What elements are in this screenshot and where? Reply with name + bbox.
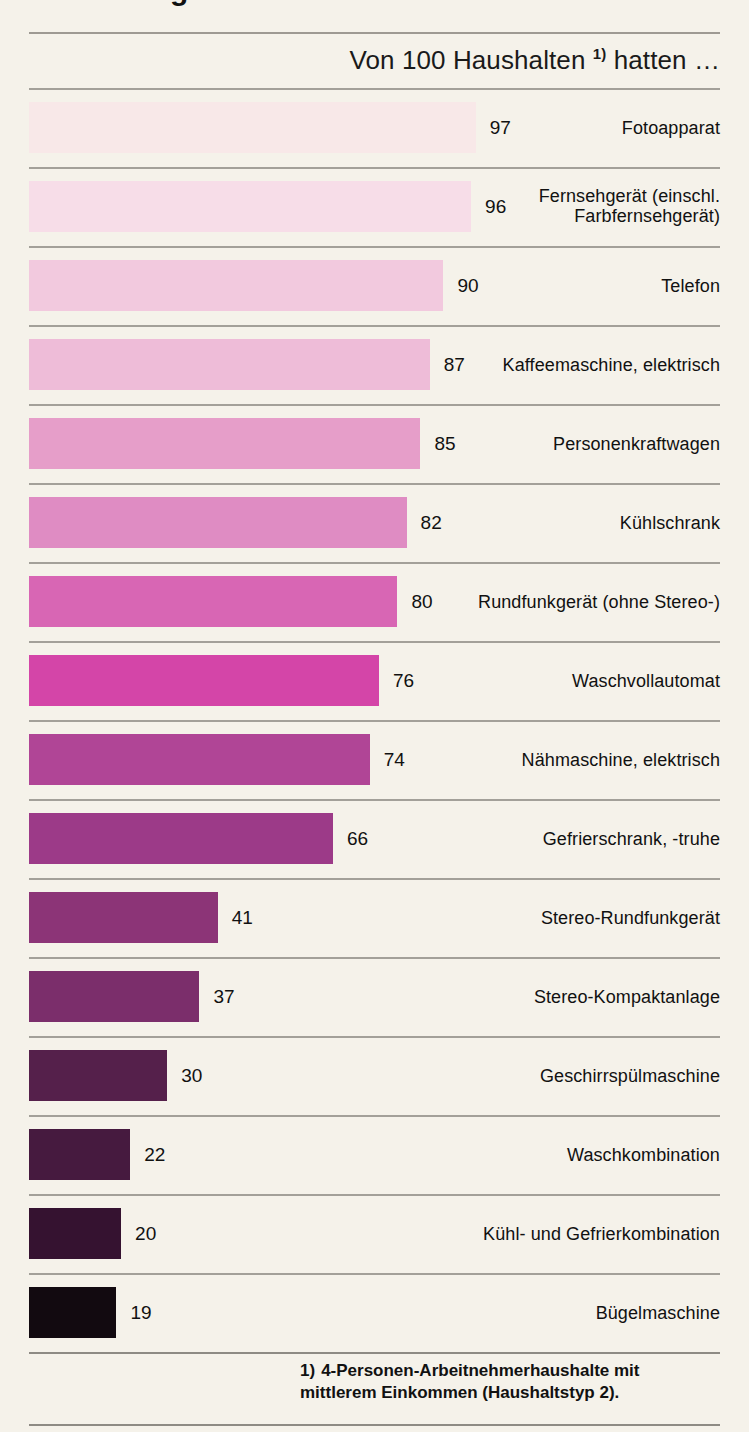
bar-row: 97Fotoapparat — [0, 88, 749, 167]
bar-rows: 97Fotoapparat96Fernsehgerät (einschl. Fa… — [0, 88, 749, 1352]
bar-row: 80Rundfunkgerät (ohne Stereo-) — [0, 562, 749, 641]
bar-label: Kühlschrank — [620, 512, 720, 533]
bar-value: 19 — [130, 1302, 151, 1324]
row-separator — [29, 167, 720, 169]
bar — [29, 655, 379, 706]
row-separator — [29, 799, 720, 801]
bar-row: 66Gefrierschrank, -truhe — [0, 799, 749, 878]
row-separator — [29, 720, 720, 722]
bar — [29, 892, 218, 943]
bar-value: 82 — [421, 512, 442, 534]
bar-label: Kühl- und Gefrierkombination — [483, 1223, 720, 1244]
bar — [29, 497, 407, 548]
rule-bottom — [29, 1424, 720, 1426]
caption-text-after: hatten … — [606, 45, 720, 75]
bar-value: 85 — [434, 433, 455, 455]
bar-row: 41Stereo-Rundfunkgerät — [0, 878, 749, 957]
bar — [29, 971, 199, 1022]
bar-row: 22Waschkombination — [0, 1115, 749, 1194]
bar-label: Telefon — [661, 275, 720, 296]
bar-value: 30 — [181, 1065, 202, 1087]
bar-row: 90Telefon — [0, 246, 749, 325]
bar-label: Fotoapparat — [622, 117, 720, 138]
bar-label: Rundfunkgerät (ohne Stereo-) — [478, 591, 720, 612]
bar-row: 76Waschvollautomat — [0, 641, 749, 720]
bar-row: 96Fernsehgerät (einschl. Farbfernsehgerä… — [0, 167, 749, 246]
bar-value: 87 — [444, 354, 465, 376]
bar-row: 19Bügelmaschine — [0, 1273, 749, 1352]
bar — [29, 1208, 121, 1259]
bar-label: Geschirrspülmaschine — [540, 1065, 720, 1086]
bar-label: Stereo-Rundfunkgerät — [541, 907, 720, 928]
footnote-marker: 1) — [300, 1361, 315, 1380]
row-separator — [29, 1036, 720, 1038]
bar-label: Stereo-Kompaktanlage — [534, 986, 720, 1007]
bar-value: 22 — [144, 1144, 165, 1166]
bar-row: 74Nähmaschine, elektrisch — [0, 720, 749, 799]
bar-row: 87Kaffeemaschine, elektrisch — [0, 325, 749, 404]
bar — [29, 1129, 130, 1180]
row-separator — [29, 878, 720, 880]
bar — [29, 102, 476, 153]
bar-label: Kaffeemaschine, elektrisch — [503, 354, 720, 375]
row-separator — [29, 1194, 720, 1196]
bar-value: 80 — [411, 591, 432, 613]
caption-footnote-marker: 1) — [593, 45, 607, 62]
chart-page: g Von 100 Haushalten 1) hatten … 97Fotoa… — [0, 0, 749, 1432]
bar-value: 76 — [393, 670, 414, 692]
row-separator — [29, 562, 720, 564]
row-separator — [29, 246, 720, 248]
caption-text-before: Von 100 Haushalten — [349, 45, 592, 75]
row-separator — [29, 1273, 720, 1275]
bar-value: 37 — [213, 986, 234, 1008]
row-separator — [29, 404, 720, 406]
bar-label: Personenkraftwagen — [553, 433, 720, 454]
bar — [29, 418, 420, 469]
chart-caption: Von 100 Haushalten 1) hatten … — [349, 45, 720, 76]
bar — [29, 181, 471, 232]
bar-row: 85Personenkraftwagen — [0, 404, 749, 483]
bar-value: 20 — [135, 1223, 156, 1245]
clipped-title-fragment: g — [170, 0, 189, 7]
bar-label: Fernsehgerät (einschl. Farbfernsehgerät) — [539, 186, 720, 227]
rule-top — [29, 32, 720, 34]
bar-row: 30Geschirrspülmaschine — [0, 1036, 749, 1115]
row-separator — [29, 641, 720, 643]
bar — [29, 260, 443, 311]
bar-row: 37Stereo-Kompaktanlage — [0, 957, 749, 1036]
bar — [29, 813, 333, 864]
bar-label: Waschkombination — [567, 1144, 720, 1165]
bar-label: Bügelmaschine — [596, 1302, 720, 1323]
bar-value: 96 — [485, 196, 506, 218]
bar-row: 82Kühlschrank — [0, 483, 749, 562]
row-separator — [29, 483, 720, 485]
bar — [29, 1050, 167, 1101]
bar — [29, 576, 397, 627]
row-separator — [29, 88, 720, 90]
bar-label: Nähmaschine, elektrisch — [522, 749, 720, 770]
bar-label: Gefrierschrank, -truhe — [543, 828, 720, 849]
row-separator — [29, 1115, 720, 1117]
bar-value: 74 — [384, 749, 405, 771]
bar-value: 41 — [232, 907, 253, 929]
bar — [29, 1287, 116, 1338]
bar-value: 97 — [490, 117, 511, 139]
bar-label: Waschvollautomat — [572, 670, 720, 691]
footnote-text: 4-Personen-Arbeitnehmerhaushalte mit mit… — [300, 1361, 639, 1402]
bar — [29, 734, 370, 785]
bar-value: 66 — [347, 828, 368, 850]
footnote: 1)4-Personen-Arbeitnehmerhaushalte mit m… — [300, 1360, 720, 1404]
bar — [29, 339, 430, 390]
bar-value: 90 — [457, 275, 478, 297]
rule-above-footnote — [29, 1352, 720, 1354]
row-separator — [29, 957, 720, 959]
bar-row: 20Kühl- und Gefrierkombination — [0, 1194, 749, 1273]
row-separator — [29, 325, 720, 327]
